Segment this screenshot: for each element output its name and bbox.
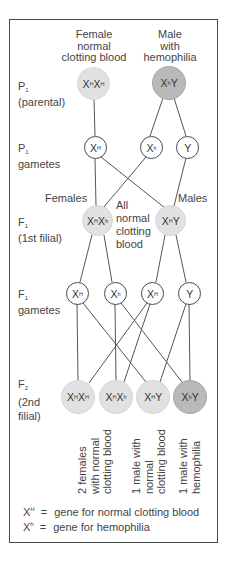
allele: Y: [171, 77, 178, 89]
female-parent-header: Female normal clotting blood: [58, 29, 130, 64]
allele: Y: [184, 142, 191, 154]
f1-gamete-3: XH: [141, 282, 164, 305]
p1-male-genotype: XhY: [152, 66, 186, 100]
allele: X: [146, 142, 153, 154]
legend-text: gene for normal clotting blood: [54, 506, 199, 518]
gen-desc: gametes: [18, 158, 60, 170]
allele: X: [144, 391, 151, 403]
legend-allele-sup: h: [30, 521, 33, 527]
allele-sup: h: [117, 291, 120, 297]
label-f2: F2 (2nd filial): [18, 377, 41, 423]
header-line: clotting blood: [58, 52, 130, 64]
males-label: Males: [178, 192, 207, 204]
allele: X: [161, 77, 168, 89]
allele: X: [162, 215, 169, 227]
gen-letter: F: [18, 288, 25, 300]
allele: Y: [155, 391, 162, 403]
header-line: hemophilia: [138, 52, 202, 64]
outcome-line: clotting blood: [101, 429, 114, 494]
outcome-male-hemophilia: 1 male with hemophilia: [177, 438, 202, 494]
gen-desc: gametes: [18, 304, 60, 316]
allele: X: [83, 78, 90, 90]
outcome-line: hemophilia: [190, 438, 203, 494]
allele: X: [78, 391, 85, 403]
gen-letter: F: [18, 216, 25, 228]
allele: X: [72, 288, 79, 300]
p1-gamete-xh-hemophilia: Xh: [140, 136, 163, 159]
gen-subscript: 1: [25, 87, 28, 93]
allele-sup: H: [97, 145, 101, 151]
header-line: Female: [58, 29, 130, 41]
label-f1: F1 (1st filial): [18, 216, 62, 244]
allele-sup: H: [154, 291, 158, 297]
legend-text: gene for hemophilia: [53, 521, 150, 533]
allele-sup: H: [85, 394, 89, 400]
gen-letter: F: [18, 378, 25, 390]
outcome-line: normal: [143, 429, 156, 494]
allele: Y: [192, 391, 199, 403]
note-line: All: [116, 199, 151, 212]
gen-subscript: 1: [25, 295, 28, 301]
outcome-line: clotting blood: [155, 429, 168, 494]
legend-allele-sup: H: [30, 506, 34, 512]
all-normal-note: All normal clotting blood: [116, 199, 151, 251]
note-line: normal: [116, 212, 151, 225]
allele-sup: h: [105, 218, 108, 224]
gen-desc: (2nd: [18, 395, 41, 409]
allele: X: [147, 288, 154, 300]
male-parent-header: Male with hemophilia: [138, 29, 202, 64]
label-f1-gametes: F1 gametes: [18, 288, 60, 316]
label-p1: P1 (parental): [18, 80, 65, 108]
legend-normal: XH = gene for normal clotting blood: [23, 506, 199, 518]
f1-female-genotype: XHXh: [82, 205, 113, 236]
allele: Y: [173, 215, 180, 227]
allele-sup: H: [79, 291, 83, 297]
legend-hemophilia: Xh = gene for hemophilia: [23, 521, 150, 533]
f1-male-genotype: XHY: [155, 205, 186, 236]
allele: X: [87, 215, 94, 227]
note-line: clotting: [116, 225, 151, 238]
f2-genotype-1: XHXH: [61, 380, 95, 414]
p1-female-genotype: XHXH: [77, 67, 110, 100]
allele-sup: h: [153, 145, 156, 151]
allele: X: [105, 391, 112, 403]
allele: Y: [186, 288, 193, 300]
gen-subscript: 1: [25, 223, 28, 229]
allele: X: [110, 288, 117, 300]
gen-desc: (parental): [18, 96, 65, 108]
f1-gamete-4: Y: [178, 282, 201, 305]
p1-gamete-xh-normal: XH: [84, 136, 107, 159]
allele: X: [116, 391, 123, 403]
allele: X: [182, 391, 189, 403]
label-p1-gametes: P1 gametes: [18, 142, 60, 170]
outcome-line: 1 male with: [177, 438, 190, 494]
f2-genotype-4: XhY: [173, 380, 207, 414]
outcome-line: 1 male with: [130, 429, 143, 494]
allele-sup: H: [101, 81, 105, 87]
allele: X: [90, 142, 97, 154]
f1-gamete-1: XH: [66, 282, 89, 305]
gen-subscript: 2: [25, 385, 28, 391]
allele: X: [67, 391, 74, 403]
outcome-females-normal: 2 females with normal clotting blood: [76, 429, 114, 494]
allele: X: [98, 215, 105, 227]
outcome-male-normal: 1 male with normal clotting blood: [130, 429, 168, 494]
outcome-line: with normal: [89, 429, 102, 494]
legend-equals: =: [41, 506, 47, 518]
header-line: Male: [138, 29, 202, 41]
p1-gamete-y: Y: [176, 136, 199, 159]
gen-desc: (1st filial): [18, 232, 62, 244]
f2-genotype-3: XHY: [136, 380, 170, 414]
legend-equals: =: [40, 521, 46, 533]
outcome-line: 2 females: [76, 429, 89, 494]
f2-genotype-2: XHXh: [99, 380, 133, 414]
females-label: Females: [45, 192, 87, 204]
f1-gamete-2: Xh: [104, 282, 127, 305]
allele: X: [94, 78, 101, 90]
note-line: blood: [116, 238, 151, 251]
allele-sup: h: [123, 394, 126, 400]
gen-subscript: 1: [25, 149, 28, 155]
gen-desc: filial): [18, 409, 41, 423]
